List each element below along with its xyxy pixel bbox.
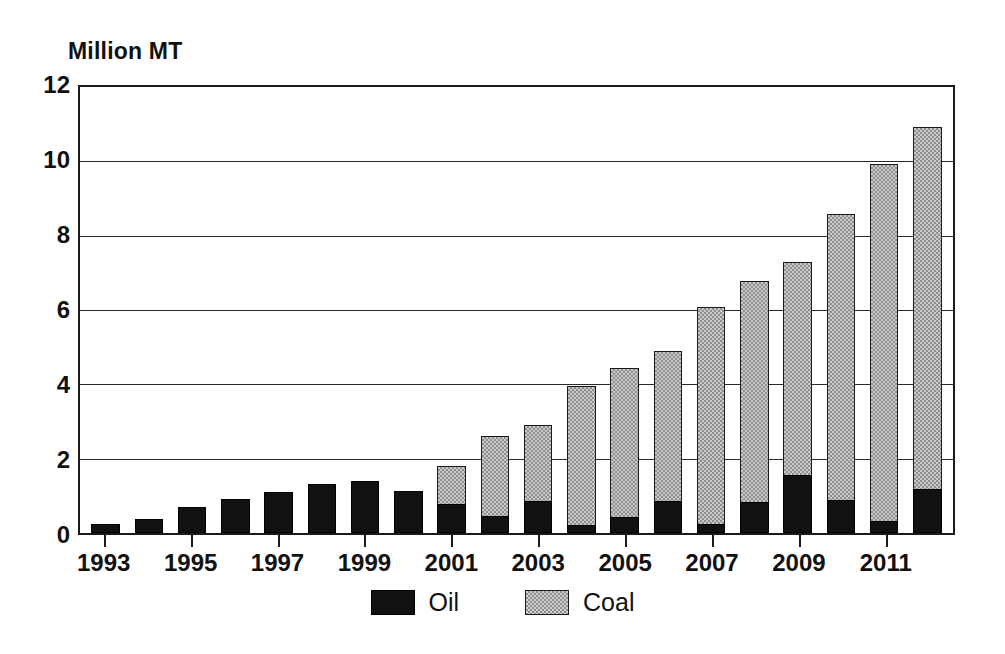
x-axis-tick	[104, 535, 106, 547]
stacked-bar[interactable]	[91, 524, 120, 533]
chart-legend: Oil Coal	[0, 588, 1005, 617]
stacked-bar[interactable]	[264, 492, 293, 533]
x-axis-tick	[712, 535, 714, 547]
stacked-bar[interactable]	[697, 307, 726, 533]
x-axis-ticks	[78, 535, 955, 549]
bar-slot	[84, 87, 127, 533]
bar-segment-coal	[913, 127, 942, 489]
y-axis-tick-label: 12	[22, 71, 70, 99]
stacked-bar[interactable]	[308, 484, 337, 533]
x-axis-tick	[451, 535, 453, 547]
bar-segment-oil	[437, 504, 466, 533]
stacked-bar[interactable]	[740, 281, 769, 533]
x-axis-tick	[538, 535, 540, 547]
stacked-bar[interactable]	[654, 351, 683, 533]
stacked-bar[interactable]	[394, 491, 423, 533]
x-axis-tick-label: 2001	[425, 549, 478, 577]
bar-segment-coal	[567, 386, 596, 525]
x-axis-tick-label: 1993	[77, 549, 130, 577]
bar-segment-oil	[610, 517, 639, 533]
bar-segment-coal	[697, 307, 726, 524]
x-axis-tick	[886, 535, 888, 547]
stacked-bar[interactable]	[481, 436, 510, 534]
bar-slot	[603, 87, 646, 533]
x-axis-tick-label: 2003	[512, 549, 565, 577]
stacked-bar[interactable]	[437, 466, 466, 534]
bar-segment-coal	[827, 214, 856, 500]
bar-slot	[387, 87, 430, 533]
bar-slot	[690, 87, 733, 533]
bar-slot	[776, 87, 819, 533]
stacked-bar[interactable]	[178, 507, 207, 533]
stacked-bar[interactable]	[870, 164, 899, 533]
bar-segment-oil	[783, 475, 812, 533]
bar-slot	[257, 87, 300, 533]
stacked-bar[interactable]	[351, 481, 380, 534]
chart-figure: Million MT 024681012 1993199519971999200…	[0, 0, 1005, 654]
bar-segment-oil	[654, 501, 683, 533]
bar-segment-coal	[870, 164, 899, 520]
stacked-bar[interactable]	[610, 368, 639, 533]
legend-label-coal: Coal	[583, 588, 634, 617]
bar-segment-oil	[870, 521, 899, 533]
bar-slot	[517, 87, 560, 533]
x-axis-tick-label: 2011	[860, 549, 912, 577]
bar-segment-oil	[697, 524, 726, 533]
x-axis-tick-label: 2009	[772, 549, 825, 577]
bar-segment-oil	[351, 481, 380, 534]
stacked-bar[interactable]	[524, 425, 553, 533]
legend-swatch-coal-icon	[525, 590, 569, 615]
bar-segment-oil	[135, 519, 164, 533]
x-axis-tick	[191, 535, 193, 547]
y-axis-tick-label: 2	[22, 446, 70, 474]
bar-slot	[300, 87, 343, 533]
stacked-bar[interactable]	[913, 127, 942, 533]
bar-segment-oil	[91, 524, 120, 533]
x-axis-tick	[799, 535, 801, 547]
bar-slot	[646, 87, 689, 533]
x-axis-tick-label: 1995	[164, 549, 217, 577]
legend-entry-coal: Coal	[525, 588, 634, 617]
bar-slot	[906, 87, 949, 533]
bar-segment-coal	[654, 351, 683, 501]
bar-slot	[819, 87, 862, 533]
bar-segment-oil	[524, 501, 553, 533]
bar-segment-oil	[567, 525, 596, 533]
bar-slot	[473, 87, 516, 533]
x-axis-tick	[364, 535, 366, 547]
bar-slot	[430, 87, 473, 533]
bar-segment-coal	[437, 466, 466, 504]
bar-slot	[863, 87, 906, 533]
legend-swatch-oil-icon	[371, 590, 415, 615]
bar-slot	[733, 87, 776, 533]
x-axis-tick	[278, 535, 280, 547]
stacked-bar[interactable]	[135, 519, 164, 533]
x-axis-tick-labels: 1993199519971999200120032005200720092011	[78, 549, 955, 583]
x-axis-tick-label: 1997	[251, 549, 304, 577]
x-axis-tick	[625, 535, 627, 547]
y-axis-tick-label: 6	[22, 296, 70, 324]
bar-slot	[344, 87, 387, 533]
bar-segment-coal	[524, 425, 553, 501]
stacked-bar[interactable]	[221, 499, 250, 533]
bar-segment-coal	[740, 281, 769, 502]
bar-segment-oil	[481, 516, 510, 533]
bar-segment-oil	[178, 507, 207, 533]
bar-segment-coal	[610, 368, 639, 517]
stacked-bar[interactable]	[827, 214, 856, 533]
y-axis-title: Million MT	[68, 38, 182, 65]
bar-segment-coal	[481, 436, 510, 517]
y-axis-tick-label: 10	[22, 146, 70, 174]
bar-segment-oil	[308, 484, 337, 533]
y-axis-tick-label: 8	[22, 221, 70, 249]
x-axis-tick-label: 1999	[338, 549, 391, 577]
legend-entry-oil: Oil	[371, 588, 460, 617]
stacked-bar[interactable]	[783, 262, 812, 533]
bar-segment-oil	[264, 492, 293, 533]
bar-segment-oil	[394, 491, 423, 533]
y-axis-tick-label: 4	[22, 371, 70, 399]
legend-label-oil: Oil	[429, 588, 460, 617]
x-axis-tick-label: 2005	[598, 549, 651, 577]
stacked-bar[interactable]	[567, 386, 596, 533]
bar-segment-oil	[740, 502, 769, 533]
